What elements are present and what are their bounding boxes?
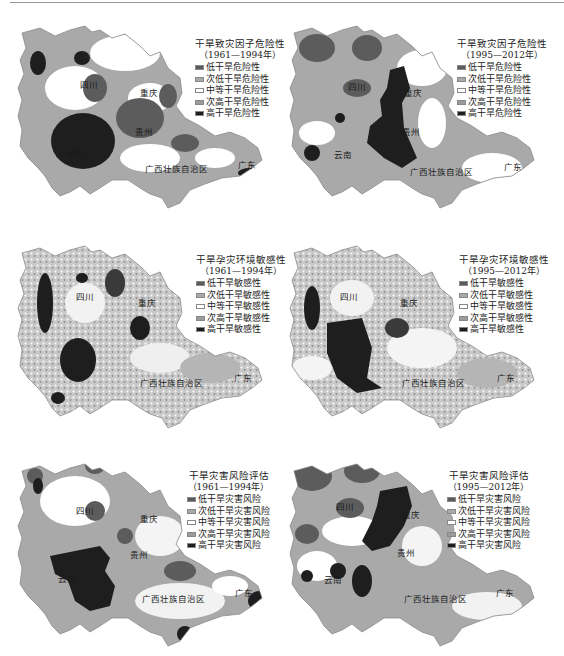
swatch-icon [195, 100, 204, 105]
province-label-yunnan: 云南 [66, 146, 84, 158]
legend-title: 干旱孕灾环境敏感性 [459, 254, 549, 266]
legend-item-sub-high: 次高干旱敏感性 [459, 313, 549, 325]
legend-item-medium: 中等干旱危险性 [457, 85, 547, 97]
swatch-icon [457, 88, 466, 93]
province-label-guangxi: 广西壮族自治区 [410, 165, 473, 177]
legend-item-sub-low: 次低干旱敏感性 [459, 290, 549, 302]
province-label-guizhou: 贵州 [397, 546, 415, 558]
province-label-chongqing: 重庆 [400, 296, 418, 308]
province-label-yunnan: 云南 [58, 572, 76, 584]
legend-item-sub-high: 次高干旱危险性 [457, 97, 547, 109]
province-label-sichuan: 四川 [340, 290, 358, 302]
province-label-sichuan: 四川 [76, 504, 94, 516]
legend-item-medium: 中等干旱敏感性 [459, 301, 549, 313]
province-label-guangdong: 广东 [504, 160, 522, 172]
legend-period: （1995—2012年） [457, 50, 547, 62]
legend-item-low: 低干旱灾害风险 [187, 494, 270, 506]
province-label-guangxi: 广西壮族自治区 [402, 376, 465, 388]
legend-item-sub-high: 次高干旱灾害风险 [187, 529, 270, 541]
swatch-icon [459, 304, 468, 309]
swatch-icon [187, 509, 196, 514]
map-panel-risk-1995-2012: 四川 重庆 贵州 云南 广西壮族自治区 广东 干旱灾害风险评估 （1995—20… [272, 446, 554, 656]
legend-period: （1961—1994年） [187, 482, 270, 494]
legend-item-high: 高干旱灾害风险 [447, 540, 530, 552]
province-label-chongqing: 重庆 [402, 508, 420, 520]
swatch-icon [447, 543, 456, 548]
top-rule [10, 2, 564, 3]
province-label-guangxi: 广西壮族自治区 [142, 592, 205, 604]
legend-item-low: 低干旱危险性 [457, 62, 547, 74]
province-label-guizhou: 贵州 [402, 125, 420, 137]
swatch-icon [459, 281, 468, 286]
swatch-icon [457, 100, 466, 105]
swatch-icon [196, 304, 205, 309]
province-label-yunnan: 云南 [324, 573, 342, 585]
swatch-icon [196, 316, 205, 321]
province-label-guangdong: 广东 [235, 586, 253, 598]
swatch-icon [187, 497, 196, 502]
swatch-icon [447, 497, 456, 502]
province-label-yunnan: 云南 [334, 148, 352, 160]
legend-item-low: 低干旱灾害风险 [447, 494, 530, 506]
province-label-guangdong: 广东 [234, 371, 252, 383]
province-label-sichuan: 四川 [348, 80, 366, 92]
province-label-chongqing: 重庆 [140, 86, 158, 98]
province-label-guizhou: 贵州 [135, 125, 153, 137]
legend-period: （1995—2012年） [459, 266, 549, 278]
swatch-icon [447, 532, 456, 537]
province-label-chongqing: 重庆 [140, 512, 158, 524]
legend-title: 干旱致灾因子危险性 [457, 38, 547, 50]
swatch-icon [457, 65, 466, 70]
map-panel-risk-1961-1994: 四川 重庆 贵州 云南 广西壮族自治区 广东 干旱灾害风险评估 （1961—19… [0, 446, 282, 656]
province-label-guangdong: 广东 [497, 371, 515, 383]
swatch-icon [187, 520, 196, 525]
legend-item-medium: 中等干旱灾害风险 [447, 517, 530, 529]
map-legend: 干旱孕灾环境敏感性 （1995—2012年） 低干旱敏感性 次低干旱敏感性 中等… [459, 254, 549, 336]
map-legend: 干旱灾害风险评估 （1961—1994年） 低干旱灾害风险 次低干旱灾害风险 中… [187, 470, 270, 552]
legend-item-sub-low: 次低干旱灾害风险 [187, 506, 270, 518]
swatch-icon [457, 111, 466, 116]
swatch-icon [195, 111, 204, 116]
province-label-sichuan: 四川 [336, 500, 354, 512]
map-panel-hazard-1995-2012: 四川 重庆 贵州 云南 广西壮族自治区 广东 干旱致灾因子危险性 （1995—2… [272, 8, 554, 223]
legend-item-medium: 中等干旱灾害风险 [187, 517, 270, 529]
swatch-icon [196, 281, 205, 286]
province-label-guangxi: 广西壮族自治区 [404, 592, 467, 604]
province-label-sichuan: 四川 [80, 78, 98, 90]
legend-item-sub-low: 次低干旱灾害风险 [447, 506, 530, 518]
swatch-icon [457, 77, 466, 82]
province-label-guangxi: 广西壮族自治区 [145, 162, 208, 174]
map-legend: 干旱灾害风险评估 （1995—2012年） 低干旱灾害风险 次低干旱灾害风险 中… [447, 470, 530, 552]
map-panel-sensitivity-1995-2012: 四川 重庆 广西壮族自治区 广东 干旱孕灾环境敏感性 （1995—2012年） … [272, 228, 554, 443]
legend-title: 干旱灾害风险评估 [447, 470, 530, 482]
province-label-chongqing: 重庆 [138, 296, 156, 308]
legend-item-high: 高干旱危险性 [457, 108, 547, 120]
province-label-guizhou: 贵州 [130, 548, 148, 560]
swatch-icon [187, 543, 196, 548]
swatch-icon [196, 293, 205, 298]
province-label-guangdong: 广东 [496, 586, 514, 598]
swatch-icon [459, 327, 468, 332]
legend-item-sub-low: 次低干旱危险性 [457, 74, 547, 86]
swatch-icon [196, 327, 205, 332]
swatch-icon [195, 77, 204, 82]
province-label-guangdong: 广东 [238, 158, 256, 170]
legend-item-high: 高干旱灾害风险 [187, 540, 270, 552]
swatch-icon [447, 509, 456, 514]
map-panel-sensitivity-1961-1994: 四川 重庆 广西壮族自治区 广东 干旱孕灾环境敏感性 （1961—1994年） … [0, 228, 282, 443]
map-legend: 干旱致灾因子危险性 （1995—2012年） 低干旱危险性 次低干旱危险性 中等… [457, 38, 547, 120]
province-label-sichuan: 四川 [76, 290, 94, 302]
swatch-icon [195, 88, 204, 93]
swatch-icon [187, 532, 196, 537]
swatch-icon [447, 520, 456, 525]
province-label-guangxi: 广西壮族自治区 [140, 376, 203, 388]
swatch-icon [459, 293, 468, 298]
swatch-icon [195, 65, 204, 70]
swatch-icon [459, 316, 468, 321]
legend-item-low: 低干旱敏感性 [459, 278, 549, 290]
province-label-chongqing: 重庆 [404, 86, 422, 98]
legend-period: （1995—2012年） [447, 482, 530, 494]
legend-item-sub-high: 次高干旱灾害风险 [447, 529, 530, 541]
legend-title: 干旱灾害风险评估 [187, 470, 270, 482]
map-panel-hazard-1961-1994: 四川 重庆 贵州 云南 广西壮族自治区 广东 干旱致灾因子危险性 （1961—1… [0, 8, 282, 223]
